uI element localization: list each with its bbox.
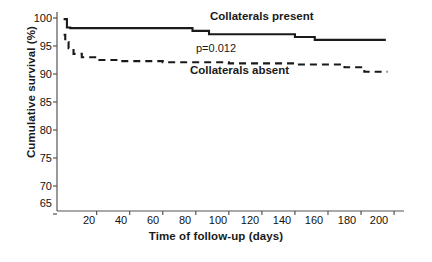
plot-canvas xyxy=(0,0,432,262)
x-tick-marks xyxy=(97,211,394,215)
axis-lines xyxy=(57,12,404,211)
survival-curve-collaterals-present xyxy=(64,19,386,40)
survival-chart-figure: Cumulative survival (%) Time of follow-u… xyxy=(0,0,432,262)
